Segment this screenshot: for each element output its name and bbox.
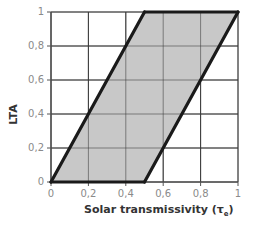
x-tick-label: 0,2 [76,188,100,199]
y-axis-label: LTA [7,100,20,130]
y-tick-label: 0,8 [24,40,44,51]
x-tick-label: 0,8 [189,188,213,199]
x-tick-label: 0,4 [114,188,138,199]
x-tick-label: 0,6 [151,188,175,199]
y-tick-label: 1 [24,6,44,17]
y-tick-label: 0,2 [24,142,44,153]
x-axis-label-main: Solar transmissivity (τ [84,203,224,216]
y-tick-label: 0 [24,176,44,187]
x-tick-label: 0 [39,188,63,199]
x-axis-label: Solar transmissivity (τe) [84,203,234,218]
x-tick-label: 1 [226,188,250,199]
y-tick-label: 0,6 [24,74,44,85]
y-tick-label: 0,4 [24,108,44,119]
shaded-region [51,12,238,182]
x-axis-label-close: ) [229,203,234,216]
